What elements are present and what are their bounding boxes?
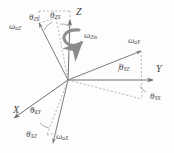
arc-theta-YX — [140, 86, 146, 92]
arc-theta-ZY — [44, 22, 52, 30]
vector-omega-aZ-line — [39, 23, 68, 80]
rotation-arc-path — [64, 30, 81, 46]
construction-dashed-group — [39, 11, 142, 135]
theta-XZ-sub: XZ — [30, 133, 36, 139]
dash-y-vertical-drop — [141, 51, 142, 98]
theta-YX-sub: YX — [154, 95, 160, 101]
theta-ZX-sub: ZX — [54, 14, 60, 20]
theta-ZY-sub: ZY — [33, 16, 39, 22]
angle-label-theta-ZX: θZX — [50, 11, 61, 21]
omega-Zm-sub: Zm — [90, 34, 97, 40]
angle-label-theta-YX: θYX — [150, 92, 161, 102]
axis-z-line — [68, 20, 70, 80]
omega-aY-sub: aY — [134, 39, 140, 45]
axis-label-z: Z — [76, 7, 82, 17]
angle-label-theta-ZY: θZY — [29, 13, 39, 23]
vector-omega-aY-line — [68, 51, 141, 80]
vector-label-omega-aZ: ωaZ — [9, 22, 21, 32]
arc-theta-ZX — [60, 24, 69, 26]
angle-label-theta-XZ: θXZ — [26, 130, 37, 140]
vector-label-omega-Zm: ωZm — [84, 31, 97, 41]
figure-root: Z Y X ωaZ ωaY ωaX ωZm θZY θZX θYZ θYX θX… — [0, 0, 174, 153]
axis-label-x: X — [13, 105, 19, 115]
dash-x-projection — [47, 80, 68, 135]
theta-YZ-sub: YZ — [123, 66, 129, 72]
dash-z-projection-diagonal — [56, 18, 68, 80]
axis-label-y: Y — [156, 64, 162, 74]
theta-XY-sub: XY — [34, 109, 40, 115]
omega-aX-sub: aX — [62, 135, 68, 141]
vector-label-omega-aX: ωaX — [56, 132, 68, 142]
dash-y-ground-projection — [68, 80, 142, 99]
vector-label-omega-aY: ωaY — [128, 36, 140, 46]
vector-group — [39, 23, 141, 143]
rotation-arrow-omega-Zm — [64, 30, 81, 46]
omega-aZ-sub: aZ — [15, 25, 21, 31]
angle-label-theta-YZ: θYZ — [119, 63, 129, 73]
arc-theta-XZ — [40, 123, 49, 128]
angle-label-theta-XY: θXY — [30, 106, 41, 116]
